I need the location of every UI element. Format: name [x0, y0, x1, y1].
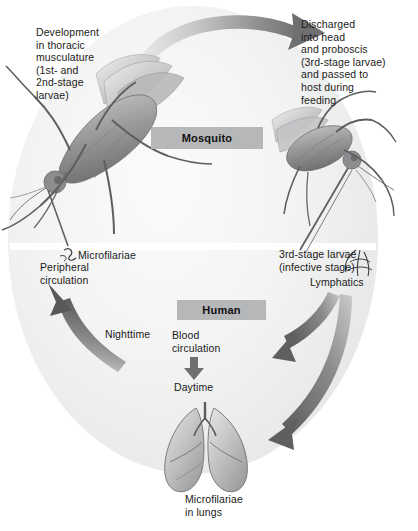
filariasis-life-cycle-diagram: Development in thoracic musculature (1st…: [0, 0, 418, 531]
label-development-thoracic-musculature: Development in thoracic musculature (1st…: [36, 26, 99, 102]
label-discharged-into-head-proboscis: Discharged into head and proboscis (3rd-…: [301, 18, 386, 106]
section-label-mosquito: Mosquito: [151, 127, 263, 149]
label-peripheral-circulation: Peripheral circulation: [40, 261, 89, 286]
label-daytime: Daytime: [174, 381, 213, 394]
label-nighttime: Nighttime: [105, 328, 150, 341]
label-microfilariae: Microfilariae: [78, 249, 136, 262]
label-blood-circulation: Blood circulation: [172, 329, 220, 354]
section-label-human: Human: [177, 300, 266, 320]
label-lymphatics: Lymphatics: [310, 276, 364, 289]
label-microfilariae-in-lungs: Microfilariae in lungs: [185, 493, 243, 518]
label-third-stage-larvae-infective: 3rd-stage larvae (infective stage): [279, 248, 356, 273]
